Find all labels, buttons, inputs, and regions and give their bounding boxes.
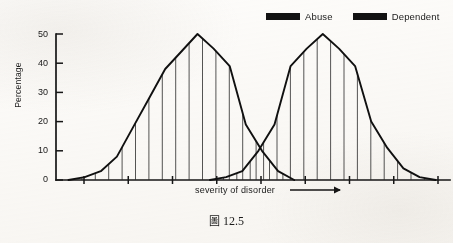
x-axis-title: severity of disorder — [195, 185, 275, 195]
series-line-abuse — [69, 34, 295, 180]
figure-caption: 圖12.5 — [0, 212, 453, 229]
series-fill-dependent — [210, 30, 424, 180]
figure-caption-number: 12.5 — [223, 214, 244, 228]
series-fill-abuse — [69, 30, 283, 180]
figure-container: Abuse Dependent Percentage 50 40 30 20 1… — [0, 0, 453, 243]
y-axis-ticks — [56, 34, 63, 180]
figure-caption-prefix: 圖 — [209, 215, 220, 228]
chart-plot-area — [0, 0, 453, 243]
right-arrow-icon — [290, 187, 341, 194]
series-line-dependent — [210, 34, 436, 180]
